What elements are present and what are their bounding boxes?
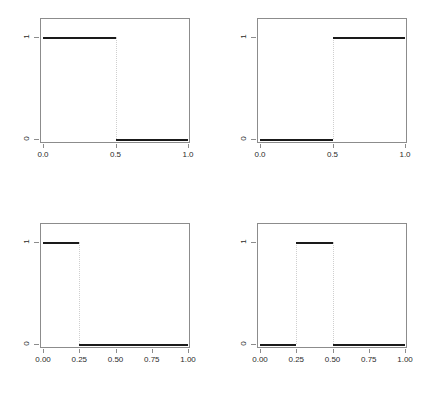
y-axis-tick <box>34 242 39 243</box>
x-axis-tick <box>43 349 44 353</box>
x-axis-tick <box>405 144 406 148</box>
x-axis-tick <box>333 349 334 353</box>
step-segment <box>79 344 188 346</box>
step-segment <box>43 242 79 244</box>
x-axis-tick-label: 0.75 <box>137 355 167 364</box>
x-axis-tick <box>116 144 117 148</box>
y-axis-tick-label: 0 <box>22 339 31 349</box>
y-axis-tick-label: 0 <box>22 134 31 144</box>
x-axis-tick-label: 0.00 <box>28 355 58 364</box>
x-axis-tick <box>116 349 117 353</box>
plot-panel-top-left: 0.00.51.001 <box>0 0 217 205</box>
plot-panel-bottom-right: 0.000.250.500.751.0001 <box>217 205 434 410</box>
x-axis-tick <box>188 349 189 353</box>
y-axis-tick <box>251 344 256 345</box>
step-segment <box>333 344 406 346</box>
step-segment <box>296 242 332 244</box>
x-axis-tick-label: 1.0 <box>173 150 203 159</box>
y-axis-tick-label: 1 <box>22 32 31 42</box>
plot-panel-bottom-left: 0.000.250.500.751.0001 <box>0 205 217 410</box>
step-segment <box>333 37 406 39</box>
step-transition-line <box>333 242 334 344</box>
x-axis-tick-label: 1.00 <box>390 355 420 364</box>
step-transition-line <box>296 242 297 344</box>
x-axis-tick-label: 0.50 <box>101 355 131 364</box>
x-axis-tick-label: 0.0 <box>245 150 275 159</box>
step-transition-line <box>79 242 80 344</box>
y-axis-tick-label: 0 <box>239 339 248 349</box>
x-axis-tick <box>405 349 406 353</box>
step-segment <box>116 139 189 141</box>
y-axis-tick <box>34 37 39 38</box>
x-axis-tick <box>260 144 261 148</box>
x-axis-tick-label: 0.50 <box>318 355 348 364</box>
figure-canvas: 0.00.51.0010.00.51.0010.000.250.500.751.… <box>0 0 434 410</box>
y-axis-tick-label: 1 <box>22 237 31 247</box>
y-axis-tick <box>34 344 39 345</box>
x-axis-tick-label: 1.0 <box>390 150 420 159</box>
plot-panel-top-right: 0.00.51.001 <box>217 0 434 205</box>
x-axis-tick <box>260 349 261 353</box>
y-axis-tick-label: 1 <box>239 32 248 42</box>
x-axis-tick <box>79 349 80 353</box>
y-axis-tick <box>34 139 39 140</box>
x-axis-tick-label: 0.00 <box>245 355 275 364</box>
x-axis-tick-label: 0.5 <box>101 150 131 159</box>
x-axis-tick <box>296 349 297 353</box>
step-segment <box>260 139 333 141</box>
x-axis-tick <box>43 144 44 148</box>
x-axis-tick-label: 0.0 <box>28 150 58 159</box>
x-axis-tick-label: 0.75 <box>354 355 384 364</box>
y-axis-tick-label: 1 <box>239 237 248 247</box>
y-axis-tick-label: 0 <box>239 134 248 144</box>
step-segment <box>43 37 116 39</box>
x-axis-tick <box>369 349 370 353</box>
y-axis-tick <box>251 37 256 38</box>
x-axis-tick <box>152 349 153 353</box>
x-axis-tick-label: 0.25 <box>64 355 94 364</box>
x-axis-tick-label: 0.25 <box>281 355 311 364</box>
x-axis-tick <box>333 144 334 148</box>
y-axis-tick <box>251 139 256 140</box>
x-axis-tick-label: 1.00 <box>173 355 203 364</box>
x-axis-tick-label: 0.5 <box>318 150 348 159</box>
step-segment <box>260 344 296 346</box>
step-transition-line <box>333 37 334 139</box>
x-axis-tick <box>188 144 189 148</box>
step-transition-line <box>116 37 117 139</box>
y-axis-tick <box>251 242 256 243</box>
